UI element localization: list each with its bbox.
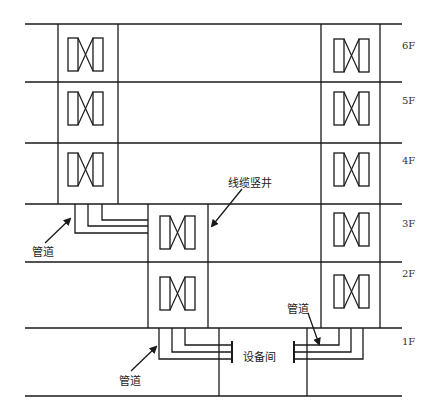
diagram-canvas bbox=[0, 0, 448, 418]
floor-label-3f: 3F bbox=[402, 218, 415, 229]
floor-lines bbox=[25, 24, 402, 396]
floor-label-2f: 2F bbox=[402, 268, 415, 279]
building-riser-diagram: 6F 5F 4F 3F 2F 1F 线缆竖井 管道 管道 管道 设备间 bbox=[0, 0, 448, 418]
conduit-label-right: 管道 bbox=[287, 300, 309, 316]
conduit-label-upper-left: 管道 bbox=[32, 243, 54, 259]
floor-label-6f: 6F bbox=[402, 40, 415, 51]
floor-label-1f: 1F bbox=[402, 336, 415, 347]
conduit-right bbox=[294, 328, 363, 363]
cable-shaft-label: 线缆竖井 bbox=[228, 174, 272, 190]
floor-label-4f: 4F bbox=[402, 155, 415, 166]
equipment-room-label: 设备间 bbox=[243, 348, 276, 364]
conduit-lower-left bbox=[159, 328, 232, 363]
annotation-arrows bbox=[45, 189, 319, 371]
floor-label-5f: 5F bbox=[402, 95, 415, 106]
shaft-walls bbox=[58, 24, 380, 396]
conduit-upper bbox=[75, 204, 148, 233]
conduit-label-lower-left: 管道 bbox=[119, 372, 141, 388]
cabinet-icons bbox=[68, 38, 369, 310]
